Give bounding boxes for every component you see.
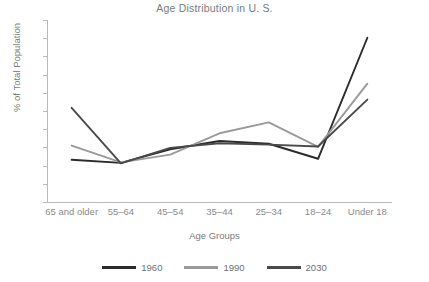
legend-label: 2030	[306, 262, 327, 273]
legend-item-1990[interactable]: 1990	[184, 262, 244, 273]
series-line-2030	[72, 100, 368, 164]
legend-item-1960[interactable]: 1960	[102, 262, 162, 273]
legend-label: 1960	[141, 262, 162, 273]
chart-legend: 196019902030	[0, 262, 429, 273]
x-axis-title: Age Groups	[0, 230, 429, 241]
legend-swatch-1990	[184, 266, 218, 268]
legend-swatch-2030	[267, 266, 301, 268]
legend-swatch-1960	[102, 266, 136, 268]
chart-container: Age Distribution in U. S. % of Total Pop…	[0, 0, 429, 282]
legend-item-2030[interactable]: 2030	[267, 262, 327, 273]
series-line-1990	[72, 84, 368, 163]
legend-label: 1990	[223, 262, 244, 273]
